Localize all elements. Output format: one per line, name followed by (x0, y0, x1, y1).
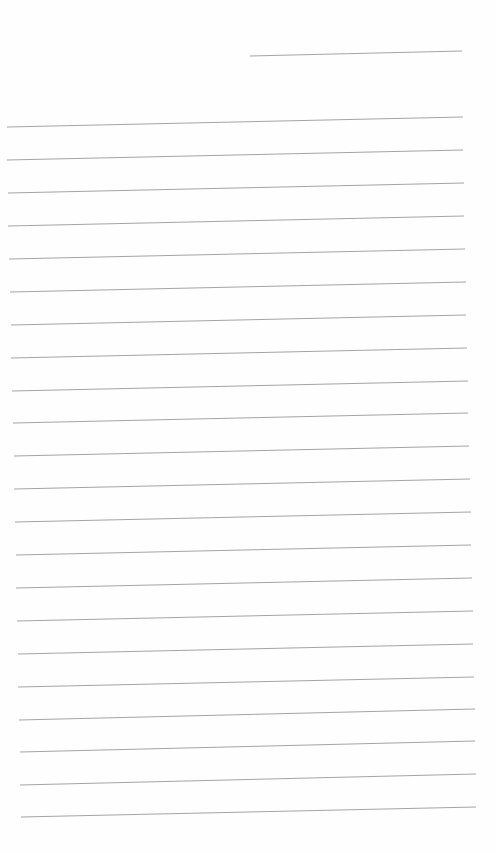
ruled-line (19, 709, 475, 720)
ruled-lines (0, 0, 496, 853)
ruled-line (8, 183, 464, 193)
ruled-line (16, 578, 472, 588)
ruled-line (11, 315, 466, 325)
ruled-line (20, 774, 476, 785)
ruled-line (8, 216, 464, 226)
ruled-line (20, 741, 475, 752)
ruled-line (18, 677, 474, 687)
lined-paper-page (0, 0, 496, 853)
ruled-line (18, 644, 473, 654)
ruled-line (12, 381, 468, 391)
ruled-line (16, 545, 471, 555)
ruled-line (11, 348, 467, 358)
ruled-line (14, 446, 469, 456)
ruled-line (21, 807, 476, 817)
ruled-line (7, 150, 463, 160)
ruled-line (7, 117, 463, 127)
ruled-line (10, 282, 466, 292)
ruled-line (14, 479, 470, 489)
header-line (250, 51, 462, 56)
ruled-line (15, 512, 471, 522)
ruled-line (9, 249, 465, 259)
ruled-line (13, 413, 468, 423)
ruled-line (17, 611, 473, 621)
